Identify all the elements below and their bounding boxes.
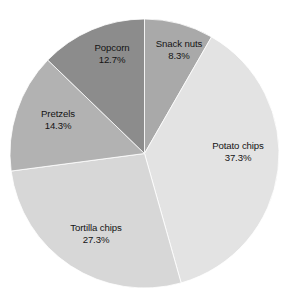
slice-label-pretzels-value: 14.3% — [24, 120, 92, 132]
slice-label-potato-chips-name: Potato chips — [196, 140, 280, 152]
slice-label-popcorn: Popcorn 12.7% — [74, 42, 150, 65]
slice-label-snack-nuts: Snack nuts 8.3% — [142, 38, 216, 61]
pie-chart: Snack nuts 8.3% Potato chips 37.3% Torti… — [0, 0, 290, 308]
slice-label-pretzels: Pretzels 14.3% — [24, 108, 92, 131]
slice-label-potato-chips-value: 37.3% — [196, 152, 280, 164]
slice-label-popcorn-name: Popcorn — [74, 42, 150, 54]
slice-label-tortilla-chips-name: Tortilla chips — [50, 222, 142, 234]
slice-label-tortilla-chips: Tortilla chips 27.3% — [50, 222, 142, 245]
slice-label-pretzels-name: Pretzels — [24, 108, 92, 120]
slice-label-snack-nuts-name: Snack nuts — [142, 38, 216, 50]
slice-label-potato-chips: Potato chips 37.3% — [196, 140, 280, 163]
slice-label-popcorn-value: 12.7% — [74, 54, 150, 66]
slice-label-tortilla-chips-value: 27.3% — [50, 234, 142, 246]
slice-label-snack-nuts-value: 8.3% — [142, 50, 216, 62]
